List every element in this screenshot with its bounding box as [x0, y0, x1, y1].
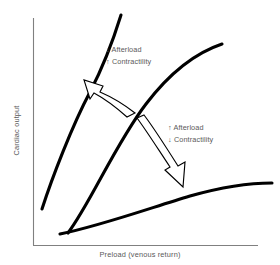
up-left-arrow-shape: [84, 80, 135, 117]
annotation-decreased-afterload-line2: ↑ Contractility: [106, 56, 151, 68]
x-axis-label: Preload (venous return): [0, 250, 280, 259]
annotation-increased-afterload-line1: ↑ Afterload: [168, 122, 213, 134]
y-axis-label: Cardiac output: [12, 71, 21, 191]
annotation-decreased-afterload-line1: ↓ Afterload: [106, 44, 151, 56]
figure-canvas: [0, 0, 280, 265]
cardiac-function-curve-figure: ↓ Afterload ↑ Contractility ↑ Afterload …: [0, 0, 280, 265]
curve-decreased-contractility: [60, 183, 272, 234]
annotation-decreased-afterload: ↓ Afterload ↑ Contractility: [106, 44, 151, 67]
up-left-arrow: [84, 80, 135, 117]
annotation-increased-afterload-line2: ↓ Contractility: [168, 134, 213, 146]
annotation-increased-afterload: ↑ Afterload ↓ Contractility: [168, 122, 213, 145]
